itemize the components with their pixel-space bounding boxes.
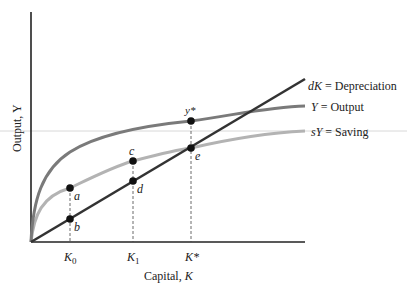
point-ystar <box>187 117 195 125</box>
point-b <box>66 215 74 223</box>
y-axis-title: Output, Y <box>10 104 24 152</box>
point-d <box>129 177 137 185</box>
legend-depreciation: dK = Depreciation <box>308 79 397 93</box>
x-axis-title: Capital, K <box>144 269 194 283</box>
label-ystar: y* <box>184 104 196 116</box>
tick-k1: K1 <box>126 250 140 266</box>
label-e: e <box>195 149 201 163</box>
point-a <box>66 184 74 192</box>
legend-saving: sY = Saving <box>311 125 368 139</box>
tick-kstar: K* <box>184 250 199 264</box>
label-d: d <box>137 182 144 196</box>
label-a: a <box>74 189 80 203</box>
solow-growth-chart: a b c d y* e dK = Depreciation Y = Outpu… <box>0 0 407 287</box>
point-e <box>187 144 195 152</box>
tick-k0: K0 <box>63 250 77 266</box>
point-c <box>129 157 137 165</box>
label-b: b <box>74 220 80 234</box>
legend-output: Y = Output <box>311 100 364 114</box>
label-c: c <box>129 144 135 158</box>
